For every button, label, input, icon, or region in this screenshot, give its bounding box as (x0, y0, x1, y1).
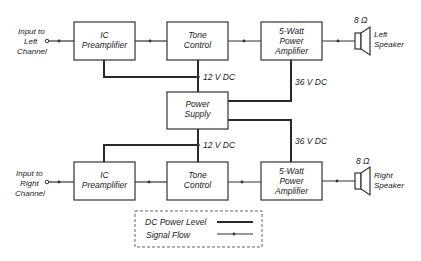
right-preamp-label-1: IC (100, 170, 109, 180)
power-supply-label-1: Power (185, 99, 210, 109)
right-channel: Input to Right Channel IC Preamplifier T… (15, 156, 404, 200)
legend-signal-flow-label: Signal Flow (146, 230, 191, 240)
left-tone-label-1: Tone (188, 30, 207, 40)
right-tone-label-2: Control (184, 180, 213, 190)
left-speaker-label-2: Speaker (374, 40, 404, 49)
top-12v-label: 12 V DC (203, 72, 236, 82)
left-amp-label-3: Amplifier (274, 46, 309, 56)
legend: DC Power Level Signal Flow (135, 211, 262, 247)
left-input-label-3: Channel (17, 47, 47, 56)
left-tone-label-2: Control (184, 40, 213, 50)
left-speaker-label-1: Left (374, 30, 388, 39)
right-input-label-3: Channel (15, 189, 45, 198)
right-input-label-2: Right (20, 179, 39, 188)
right-input-label-1: Input to (16, 169, 43, 178)
right-input-terminal-icon (45, 180, 49, 184)
left-preamp-label-2: Preamplifier (82, 40, 129, 50)
left-channel: Input to Left Channel IC Preamplifier To… (17, 15, 404, 60)
top-36v-label: 36 V DC (295, 77, 328, 87)
right-impedance-label: 8 Ω (356, 156, 370, 166)
left-preamp-label-1: IC (100, 30, 109, 40)
left-input-label-1: Input to (18, 27, 45, 36)
right-preamp-label-2: Preamplifier (82, 180, 129, 190)
left-input-label-2: Left (24, 37, 38, 46)
right-amp-label-3: Amplifier (274, 186, 309, 196)
right-tone-label-1: Tone (188, 170, 207, 180)
right-amp-label-2: Power (279, 176, 304, 186)
right-amp-label-1: 5-Watt (279, 166, 305, 176)
power-supply-label-2: Supply (185, 109, 212, 119)
legend-dc-power-label: DC Power Level (145, 217, 208, 227)
bottom-12v-label: 12 V DC (203, 140, 236, 150)
left-input-terminal-icon (45, 39, 49, 43)
bottom-36v-label: 36 V DC (295, 136, 328, 146)
left-amp-label-2: Power (279, 36, 304, 46)
left-amp-label-1: 5-Watt (279, 26, 305, 36)
left-speaker-icon (355, 27, 370, 55)
left-impedance-label: 8 Ω (354, 15, 368, 25)
right-speaker-label-1: Right (374, 171, 393, 180)
right-speaker-icon (355, 167, 370, 195)
right-speaker-label-2: Speaker (374, 181, 404, 190)
block-diagram: Input to Left Channel IC Preamplifier To… (0, 0, 421, 261)
